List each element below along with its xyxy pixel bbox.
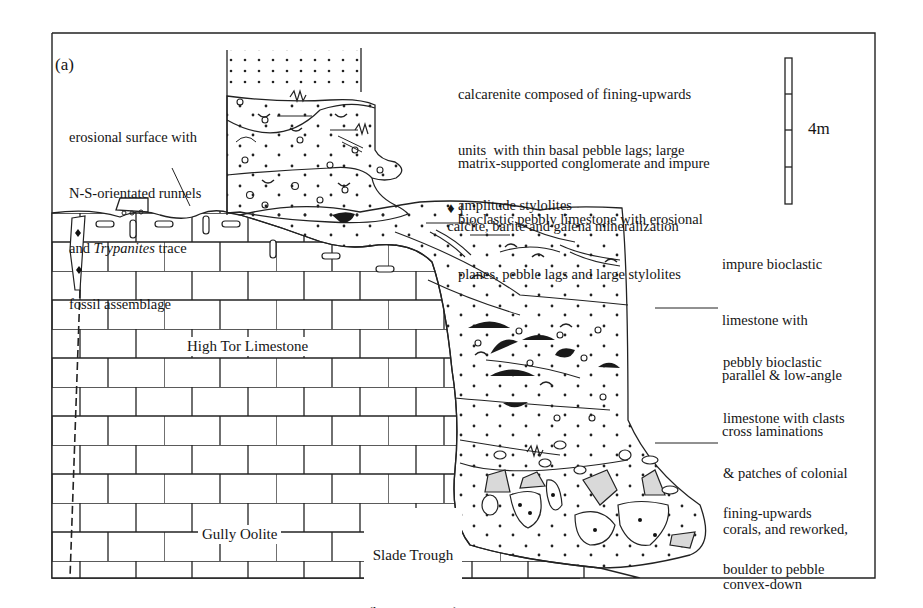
erosional-surface-annotation: erosional surface with N-S-orientated ru… [69,91,201,332]
diamond-bracket-icon: ♦ { [447,200,465,216]
calcarenite-unit [227,50,361,90]
scale-bar [785,58,792,204]
conglomerate-unit [227,96,408,223]
scale-bar-label: 4m [808,120,830,139]
annotation-line: and Trypanites trace [69,239,201,258]
high-tor-limestone-label: High Tor Limestone [183,337,312,356]
slade-trough-label: Slade Trough (base not seen) [364,508,462,608]
annotation-line: erosional surface with [69,128,201,147]
gully-oolite-label: Gully Oolite [198,525,281,544]
breccio-conglomerate-annotation: fining-upwards boulder to pebble breccio… [723,467,849,608]
mineralization-legend: ♦ { calcite, barite and galena mineraliz… [440,180,679,236]
annotation-line: N-S-orientated runnels [69,184,201,203]
annotation-line: fossil assemblage [69,295,201,314]
panel-label: (a) [55,56,74,75]
